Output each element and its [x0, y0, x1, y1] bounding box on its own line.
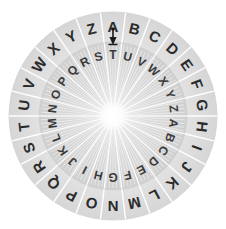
inner-ring-letter[interactable]: M	[45, 118, 60, 130]
inner-ring-letter[interactable]: G	[108, 170, 117, 184]
cipher-disk-graphic[interactable]: ABCDEFGHIJKLMNOPQRSTUVWXYZ TUVWXYZABCDEF…	[0, 0, 226, 229]
inner-ring-letter[interactable]: N	[45, 104, 60, 114]
outer-ring-letter[interactable]: G	[193, 98, 211, 112]
inner-ring-letter[interactable]: T	[109, 48, 117, 62]
cipher-disk-root: ABCDEFGHIJKLMNOPQRSTUVWXYZ TUVWXYZABCDEF…	[0, 0, 226, 229]
outer-ring-letter[interactable]: H	[193, 120, 211, 133]
center-hub-core	[110, 113, 116, 119]
pointer-knob-icon	[111, 27, 114, 30]
outer-ring-letter[interactable]: U	[15, 99, 33, 112]
outer-ring-letter[interactable]: N	[108, 198, 119, 215]
